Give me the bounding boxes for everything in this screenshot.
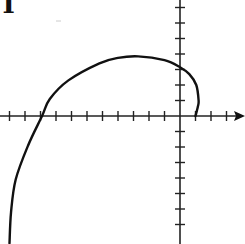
parametric-curve-plot [0,0,245,244]
curve-path [10,56,199,243]
axes [0,0,238,244]
